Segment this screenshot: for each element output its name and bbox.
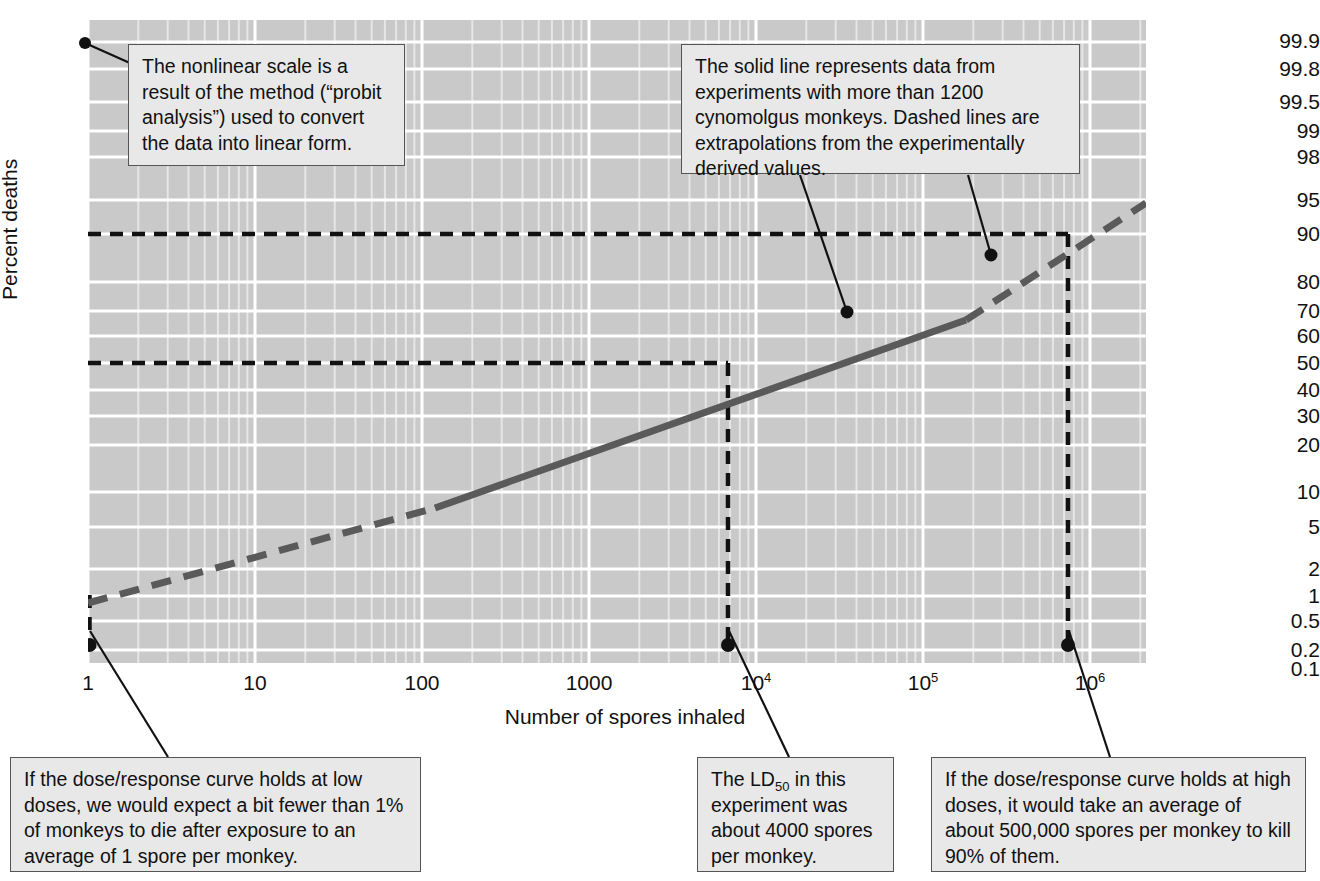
y-tick-20: 20 [1238,434,1320,455]
ld50-marker [721,638,735,652]
y-tick-10: 10 [1238,481,1320,502]
chart-figure: 99.9 99.8 99.5 99 98 95 90 80 70 60 50 4… [0,0,1320,881]
y-tick-60: 60 [1238,325,1320,346]
y-tick-90: 90 [1238,223,1320,244]
y-tick-99.9: 99.9 [1238,30,1320,51]
x-tick-1000000-exponent: 6 [1098,670,1105,685]
x-tick-100000-label: 10 [908,671,931,694]
y-tick-95: 95 [1238,189,1320,210]
x-tick-10-label: 10 [243,671,266,694]
y-tick-2: 2 [1238,558,1320,579]
y-tick-99: 99 [1238,120,1320,141]
callout-solid-line-explanation: The solid line represents data from expe… [681,44,1080,174]
y-tick-99.5: 99.5 [1238,91,1320,112]
y-tick-70: 70 [1238,300,1320,321]
y-tick-80: 80 [1238,271,1320,292]
x-tick-1000: 1000 [549,672,629,693]
x-tick-1000000: 106 [1050,672,1130,693]
y-tick-0.5: 0.5 [1238,610,1320,631]
x-tick-100000-exponent: 5 [931,670,938,685]
reference-lines [88,234,1068,645]
curve-segment-extrapolated-low [88,508,435,603]
x-tick-1-label: 1 [82,671,94,694]
curve-segment-extrapolated-high [966,203,1146,320]
y-tick-99.8: 99.8 [1238,58,1320,79]
callout-high-dose-explanation: If the dose/response curve holds at high… [931,757,1306,872]
x-tick-100000: 105 [883,672,963,693]
y-tick-98: 98 [1238,146,1320,167]
callout-ld50-subscript: 50 [775,779,789,794]
x-tick-10: 10 [215,672,295,693]
callout-low-dose-explanation: If the dose/response curve holds at low … [10,757,421,872]
x-tick-10000-label: 10 [741,671,764,694]
y-tick-30: 30 [1238,405,1320,426]
y-tick-40: 40 [1238,379,1320,400]
x-tick-1000000-label: 10 [1075,671,1098,694]
y-tick-50: 50 [1238,352,1320,373]
x-axis-label: Number of spores inhaled [0,705,1250,729]
y-tick-0.1: 0.1 [1238,658,1320,679]
y-axis-label: Percent deaths [0,80,22,300]
x-tick-10000-exponent: 4 [764,670,771,685]
x-tick-100-label: 100 [404,671,439,694]
callout-ld50-explanation: The LD50 in this experiment was about 40… [697,757,894,872]
ld90-marker [1061,638,1075,652]
x-tick-1: 1 [48,672,128,693]
callout-probit-explanation: The nonlinear scale is a result of the m… [128,44,405,166]
y-tick-5: 5 [1238,516,1320,537]
x-tick-1000-label: 1000 [566,671,613,694]
x-tick-10000: 104 [716,672,796,693]
callout-ld50-prefix: The LD [711,768,775,790]
y-tick-1: 1 [1238,585,1320,606]
x-tick-100: 100 [382,672,462,693]
